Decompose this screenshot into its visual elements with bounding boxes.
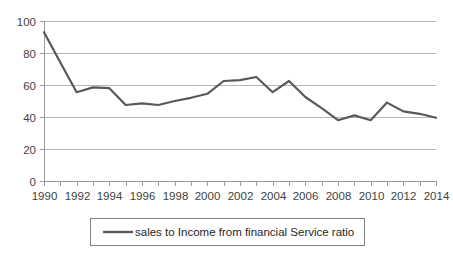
y-tick-label-60: 60 xyxy=(23,80,36,92)
x-axis-tick-labels: 1990199219941996199820002002200420062008… xyxy=(32,190,450,202)
y-axis-ticks xyxy=(40,22,44,182)
x-tick-label-2000: 2000 xyxy=(195,190,221,202)
x-tick-label-1992: 1992 xyxy=(65,190,91,202)
x-tick-label-2004: 2004 xyxy=(261,190,287,202)
x-tick-label-2008: 2008 xyxy=(326,190,352,202)
x-tick-label-2010: 2010 xyxy=(359,190,385,202)
x-tick-label-1998: 1998 xyxy=(163,190,189,202)
line-chart: 020406080100 199019921994199619982000200… xyxy=(0,0,453,260)
y-tick-label-100: 100 xyxy=(17,16,36,28)
legend-label: sales to Income from financial Service r… xyxy=(135,226,354,238)
y-tick-label-80: 80 xyxy=(23,48,36,60)
y-tick-label-40: 40 xyxy=(23,112,36,124)
x-tick-label-1994: 1994 xyxy=(97,190,123,202)
chart-legend: sales to Income from financial Service r… xyxy=(91,219,365,246)
x-tick-label-2006: 2006 xyxy=(293,190,319,202)
series-line-0 xyxy=(44,32,436,120)
chart-container: 020406080100 199019921994199619982000200… xyxy=(0,0,453,260)
x-tick-label-2014: 2014 xyxy=(424,190,450,202)
y-axis-tick-labels: 020406080100 xyxy=(17,16,36,188)
x-tick-label-1996: 1996 xyxy=(130,190,156,202)
gridlines-group xyxy=(44,22,436,182)
x-tick-label-2002: 2002 xyxy=(228,190,254,202)
y-tick-label-0: 0 xyxy=(30,176,36,188)
data-series-group xyxy=(44,32,436,120)
y-tick-label-20: 20 xyxy=(23,144,36,156)
x-tick-label-1990: 1990 xyxy=(32,190,58,202)
x-tick-label-2012: 2012 xyxy=(391,190,417,202)
